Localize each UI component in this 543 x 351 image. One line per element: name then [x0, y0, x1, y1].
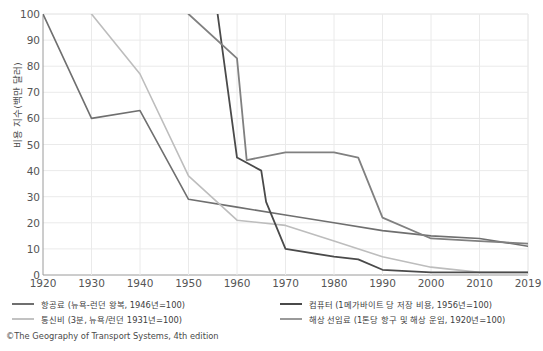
- chart-legend: 항공료 (뉴욕-런던 왕복, 1946년=100) 컴퓨터 (1메가바이트 당 …: [6, 296, 541, 326]
- legend-item-computer[interactable]: 컴퓨터 (1메가바이트 당 저장 비용, 1956년=100): [274, 296, 542, 311]
- legend-swatch-maritime: [280, 318, 302, 320]
- cost-index-line-chart: 비용 지수(백만 달러) 0102030405060708090100 1920…: [0, 0, 543, 351]
- legend-item-telecom[interactable]: 통신비 (3분, 뉴욕/런던 1931년=100): [6, 311, 274, 326]
- gridlines: [43, 14, 528, 275]
- series-line-2: [218, 14, 528, 272]
- legend-label-maritime: 해상 선임료 (1톤당 항구 및 해상 운임, 1920년=100): [309, 313, 506, 325]
- legend-label-telecom: 통신비 (3분, 뉴욕/런던 1931년=100): [41, 313, 182, 325]
- plot-area: [0, 0, 543, 290]
- legend-item-air[interactable]: 항공료 (뉴욕-런던 왕복, 1946년=100): [6, 296, 274, 311]
- legend-label-air: 항공료 (뉴욕-런던 왕복, 1946년=100): [41, 298, 185, 310]
- series-line-3: [189, 14, 529, 244]
- legend-swatch-air: [12, 303, 34, 305]
- legend-swatch-computer: [280, 303, 302, 305]
- legend-label-computer: 컴퓨터 (1메가바이트 당 저장 비용, 1956년=100): [309, 298, 492, 310]
- copyright-credit: ©The Geography of Transport Systems, 4th…: [6, 331, 219, 341]
- legend-swatch-telecom: [12, 318, 34, 320]
- legend-item-maritime[interactable]: 해상 선임료 (1톤당 항구 및 해상 운임, 1920년=100): [274, 311, 542, 326]
